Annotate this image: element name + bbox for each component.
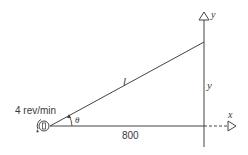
- rotating-light-icon: [37, 120, 50, 133]
- rotation-rate-label: 4 rev/min: [15, 106, 56, 116]
- y-axis-label: y: [211, 10, 215, 20]
- vertical-y-label: y: [207, 80, 212, 91]
- hypotenuse-l-label: l: [123, 76, 126, 87]
- diagram-canvas: 4 rev/min θ l y 800 x y: [0, 0, 248, 155]
- base-distance-label: 800: [122, 131, 139, 141]
- angle-theta-label: θ: [75, 116, 79, 125]
- x-axis-arrow-icon: [228, 121, 236, 131]
- y-axis-arrow-icon: [199, 12, 209, 20]
- hypotenuse-line: [50, 42, 204, 126]
- x-axis-label: x: [228, 110, 232, 120]
